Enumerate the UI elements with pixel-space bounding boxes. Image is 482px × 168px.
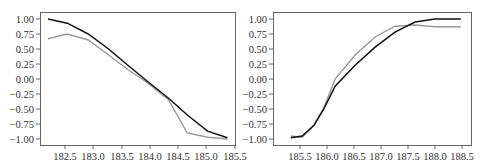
left-xtick-label: 185.0 — [194, 151, 218, 162]
left-xtick-label: 183.5 — [110, 151, 134, 162]
left-xtick-label: 183.0 — [81, 151, 105, 162]
left-ytick-label: −1.00 — [10, 134, 34, 145]
figure: 1.00 0.75 0.50 0.25 0.00 −0.25 −0.50 −0.… — [0, 0, 482, 168]
right-ytick-label: −0.25 — [243, 89, 267, 100]
right-xtick-label: 188.5 — [450, 151, 474, 162]
right-xtick-label: 185.5 — [288, 151, 312, 162]
left-x-axis: 182.5 183.0 183.5 184.0 184.5 185.0 185.… — [53, 145, 247, 162]
left-xtick-label: 185.5 — [223, 151, 247, 162]
left-chart: 1.00 0.75 0.50 0.25 0.00 −0.25 −0.50 −0.… — [10, 13, 247, 163]
right-ytick-label: 1.00 — [249, 14, 267, 25]
left-ytick-label: 0.25 — [16, 59, 34, 70]
left-xtick-label: 184.5 — [166, 151, 190, 162]
right-x-axis: 185.5 186.0 186.5 187.0 187.5 188.0 188.… — [288, 145, 474, 162]
left-ytick-label: −0.50 — [10, 104, 34, 115]
left-ytick-label: 0.00 — [16, 74, 34, 85]
right-xtick-label: 186.0 — [315, 151, 339, 162]
left-series-gray — [48, 34, 227, 139]
right-ytick-label: 0.00 — [249, 74, 267, 85]
right-xtick-label: 187.5 — [396, 151, 420, 162]
right-ytick-label: 0.75 — [249, 29, 267, 40]
left-ytick-label: 0.50 — [16, 44, 34, 55]
left-ytick-label: −0.75 — [10, 119, 34, 130]
left-plot-frame — [41, 13, 236, 146]
right-plot-frame — [274, 13, 472, 146]
right-ytick-label: −0.75 — [243, 119, 267, 130]
left-ytick-label: 0.75 — [16, 29, 34, 40]
left-xtick-label: 184.0 — [138, 151, 162, 162]
right-xtick-label: 188.0 — [423, 151, 447, 162]
left-xtick-label: 182.5 — [53, 151, 77, 162]
left-y-axis: 1.00 0.75 0.50 0.25 0.00 −0.25 −0.50 −0.… — [10, 14, 40, 145]
left-ytick-label: 1.00 — [16, 14, 34, 25]
right-ytick-label: −1.00 — [243, 134, 267, 145]
right-ytick-label: 0.25 — [249, 59, 267, 70]
right-chart: 1.00 0.75 0.50 0.25 0.00 −0.25 −0.50 −0.… — [243, 13, 474, 163]
left-ytick-label: −0.25 — [10, 89, 34, 100]
right-ytick-label: −0.50 — [243, 104, 267, 115]
right-xtick-label: 186.5 — [342, 151, 366, 162]
right-ytick-label: 0.50 — [249, 44, 267, 55]
right-xtick-label: 187.0 — [369, 151, 393, 162]
right-y-axis: 1.00 0.75 0.50 0.25 0.00 −0.25 −0.50 −0.… — [243, 14, 273, 145]
